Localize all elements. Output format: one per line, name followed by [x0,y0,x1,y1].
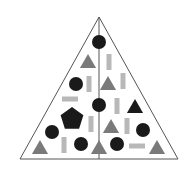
black-circle-shape [74,137,88,151]
gray-vertical-bar-shape [115,98,120,114]
gray-triangle-shape [32,140,48,154]
gray-triangle-shape [103,119,119,133]
gray-vertical-bar-shape [125,118,130,134]
gray-triangle-shape [149,140,165,154]
gray-triangle-shape [100,76,116,90]
black-circle-shape [92,35,106,49]
gray-horizontal-bar-shape [62,97,78,102]
black-circle-shape [92,98,106,112]
gray-horizontal-bar-shape [129,144,145,149]
black-circle-shape [136,123,150,137]
gray-triangle-shape [91,140,107,154]
black-circle-shape [69,77,83,91]
gray-vertical-bar-shape [107,54,112,70]
gray-vertical-bar-shape [89,116,94,132]
black-circle-shape [45,125,59,139]
gray-triangle-shape [80,54,96,68]
black-pentagon-shape [61,107,84,129]
black-circle-shape [110,137,124,151]
gray-vertical-bar-shape [121,73,126,89]
gray-vertical-bar-shape [62,137,67,153]
triangle-diagram [0,0,192,173]
black-triangle-shape [127,99,143,113]
gray-vertical-bar-shape [87,76,92,92]
